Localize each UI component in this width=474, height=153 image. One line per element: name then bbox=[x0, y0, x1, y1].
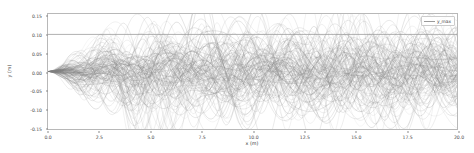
x-tick-label: 10.0 bbox=[248, 135, 258, 140]
x-tick-label: 17.5 bbox=[403, 135, 413, 140]
x-axis-label: x (m) bbox=[246, 141, 259, 146]
y-tick-label: -0.05 bbox=[30, 89, 42, 94]
x-tick-label: 5.0 bbox=[147, 135, 154, 140]
plot-area: 0.150.100.050.00-0.05-0.10-0.15 0.02.55.… bbox=[47, 13, 458, 130]
y-tick-label: 0.15 bbox=[32, 13, 42, 18]
y-tick-label: -0.10 bbox=[30, 108, 42, 113]
legend-swatch-y-max bbox=[424, 21, 435, 22]
x-tick-mark bbox=[356, 131, 357, 133]
x-tick-mark bbox=[407, 131, 408, 133]
y-tick-label: -0.15 bbox=[30, 127, 42, 132]
x-tick-mark bbox=[304, 131, 305, 133]
y-tick-label: 0.00 bbox=[32, 70, 42, 75]
x-tick-mark bbox=[48, 131, 49, 133]
x-tick-label: 12.5 bbox=[300, 135, 310, 140]
x-tick-mark bbox=[150, 131, 151, 133]
ray-paths bbox=[48, 14, 457, 129]
y-tick-label: 0.05 bbox=[32, 51, 42, 56]
y-axis-label: y (m) bbox=[7, 65, 12, 78]
x-tick-mark bbox=[99, 131, 100, 133]
ray-path bbox=[48, 31, 457, 129]
x-tick-label: 2.5 bbox=[96, 135, 103, 140]
y-tick-label: 0.10 bbox=[32, 32, 42, 37]
legend-label-y-max: y_max bbox=[437, 19, 451, 24]
x-tick-label: 15.0 bbox=[351, 135, 361, 140]
x-tick-mark bbox=[459, 131, 460, 133]
x-tick-label: 7.5 bbox=[199, 135, 206, 140]
trajectory-bundle bbox=[48, 14, 457, 129]
x-tick-mark bbox=[253, 131, 254, 133]
x-tick-label: 0.0 bbox=[44, 135, 51, 140]
x-tick-label: 20.0 bbox=[454, 135, 464, 140]
figure: y (m) x (m) 0.150.100.050.00-0.05-0.10-0… bbox=[0, 0, 474, 153]
x-tick-mark bbox=[202, 131, 203, 133]
legend: y_max bbox=[421, 16, 455, 26]
